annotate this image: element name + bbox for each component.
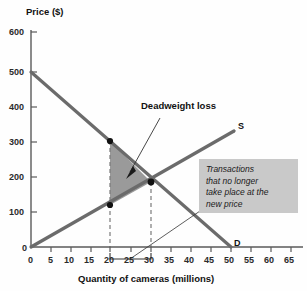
x-tick-label-15: 15 — [84, 255, 94, 265]
note-line-1: Transactions — [206, 164, 292, 176]
y-tick-marks — [31, 32, 37, 212]
chart-canvas — [0, 0, 307, 291]
x-tick-label-10: 10 — [64, 255, 74, 265]
x-tick-marks — [51, 247, 291, 252]
x-tick-label-65: 65 — [284, 255, 294, 265]
y-tick-label-0: 0 — [22, 243, 27, 253]
deadweight-loss-chart: Price ($) 600 500 400 300 200 100 0 0 5 … — [0, 0, 307, 291]
x-tick-label-45: 45 — [204, 255, 214, 265]
point-equilibrium — [148, 179, 155, 186]
y-tick-label-500: 500 — [9, 67, 24, 77]
x-tick-label-0: 0 — [28, 255, 33, 265]
y-tick-label-300: 300 — [9, 137, 24, 147]
x-axis-title: Quantity of cameras (millions) — [78, 273, 214, 284]
supply-curve-label: S — [238, 121, 244, 131]
y-tick-label-600: 600 — [9, 27, 24, 37]
y-tick-label-400: 400 — [9, 102, 24, 112]
note-line-3: take place at the — [206, 187, 292, 199]
x-tick-label-20: 20 — [104, 255, 114, 265]
x-tick-label-30: 30 — [144, 255, 154, 265]
y-tick-label-100: 100 — [9, 207, 24, 217]
point-demand-at-q20 — [107, 138, 113, 144]
y-tick-label-200: 200 — [9, 172, 24, 182]
x-tick-label-5: 5 — [48, 255, 53, 265]
y-axis-title: Price ($) — [26, 6, 64, 17]
x-tick-label-55: 55 — [244, 255, 254, 265]
demand-curve-label: D — [234, 238, 241, 248]
x-tick-label-60: 60 — [264, 255, 274, 265]
note-leader-line — [130, 211, 200, 259]
note-line-2: that no longer — [206, 176, 292, 188]
point-supply-at-q20 — [107, 202, 113, 208]
deadweight-loss-label: Deadweight loss — [141, 100, 216, 111]
x-tick-label-25: 25 — [124, 255, 134, 265]
lost-transactions-note-box: Transactions that no longer take place a… — [199, 159, 298, 213]
x-tick-label-50: 50 — [224, 255, 234, 265]
x-tick-label-40: 40 — [184, 255, 194, 265]
x-tick-label-35: 35 — [164, 255, 174, 265]
deadweight-loss-leader-line — [130, 118, 160, 172]
note-line-4: new price — [206, 199, 292, 211]
